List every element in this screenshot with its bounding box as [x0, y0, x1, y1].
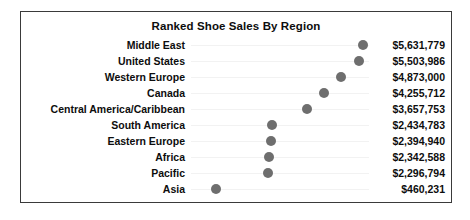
value-label: $3,657,753: [392, 101, 445, 117]
data-point-marker: [336, 72, 346, 82]
value-label: $2,342,588: [392, 149, 445, 165]
chart-row: Middle East$5,631,779: [21, 37, 451, 53]
connector-line: [191, 141, 369, 142]
connector-line: [191, 173, 369, 174]
data-point-marker: [263, 168, 273, 178]
value-label: $5,631,779: [392, 37, 445, 53]
connector-line: [191, 157, 369, 158]
connector-line: [191, 45, 369, 46]
category-label: Asia: [163, 181, 185, 197]
category-label: Central America/Caribbean: [51, 101, 185, 117]
chart-row: Central America/Caribbean$3,657,753: [21, 101, 451, 117]
chart-title: Ranked Shoe Sales By Region: [21, 20, 451, 32]
data-point-marker: [266, 136, 276, 146]
chart-row: Asia$460,231: [21, 181, 451, 197]
data-point-marker: [264, 152, 274, 162]
chart-row: Pacific$2,296,794: [21, 165, 451, 181]
category-label: Pacific: [151, 165, 185, 181]
connector-line: [191, 61, 369, 62]
chart-row: Western Europe$4,873,000: [21, 69, 451, 85]
connector-line: [191, 125, 369, 126]
dot-plot-area: Middle East$5,631,779United States$5,503…: [21, 37, 451, 197]
data-point-marker: [354, 56, 364, 66]
chart-row: United States$5,503,986: [21, 53, 451, 69]
value-label: $460,231: [401, 181, 445, 197]
chart-row: Eastern Europe$2,394,940: [21, 133, 451, 149]
value-label: $2,296,794: [392, 165, 445, 181]
category-label: South America: [111, 117, 185, 133]
chart-row: South America$2,434,783: [21, 117, 451, 133]
value-label: $4,873,000: [392, 69, 445, 85]
connector-line: [191, 93, 369, 94]
value-label: $5,503,986: [392, 53, 445, 69]
data-point-marker: [302, 104, 312, 114]
category-label: Canada: [147, 85, 185, 101]
data-point-marker: [319, 88, 329, 98]
value-label: $4,255,712: [392, 85, 445, 101]
chart-frame: Ranked Shoe Sales By Region Middle East$…: [20, 11, 452, 203]
data-point-marker: [211, 184, 221, 194]
category-label: Africa: [155, 149, 185, 165]
value-label: $2,394,940: [392, 133, 445, 149]
data-point-marker: [267, 120, 277, 130]
category-label: Western Europe: [105, 69, 185, 85]
value-label: $2,434,783: [392, 117, 445, 133]
category-label: Middle East: [127, 37, 185, 53]
category-label: United States: [118, 53, 185, 69]
chart-row: Africa$2,342,588: [21, 149, 451, 165]
chart-row: Canada$4,255,712: [21, 85, 451, 101]
data-point-marker: [358, 40, 368, 50]
connector-line: [191, 109, 369, 110]
category-label: Eastern Europe: [107, 133, 185, 149]
